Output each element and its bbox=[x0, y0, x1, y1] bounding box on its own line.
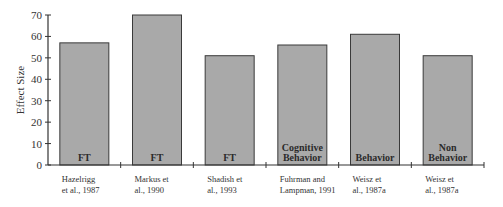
bar-inner-label: FT bbox=[151, 152, 164, 163]
x-category-label: Fuhrman and bbox=[280, 174, 326, 184]
x-category-label: Weisz et bbox=[353, 174, 382, 184]
x-axis bbox=[48, 162, 484, 168]
y-axis-label: Effect Size bbox=[14, 66, 26, 114]
bar bbox=[60, 43, 109, 165]
bar bbox=[133, 15, 182, 165]
x-category-label: Lampman, 1991 bbox=[280, 185, 336, 195]
bar bbox=[205, 56, 254, 165]
x-category-label: Hazelrigg bbox=[62, 174, 96, 184]
y-tick-label: 20 bbox=[31, 116, 43, 128]
x-category-label: al., 1990 bbox=[135, 185, 165, 195]
bar-inner-label: Behavior bbox=[428, 152, 467, 163]
y-tick-label: 40 bbox=[31, 73, 43, 85]
y-tick-label: 70 bbox=[31, 9, 43, 21]
y-tick-label: 30 bbox=[31, 95, 43, 107]
bar bbox=[351, 34, 400, 165]
y-tick-label: 10 bbox=[31, 138, 43, 150]
bar-inner-label: FT bbox=[223, 152, 236, 163]
x-category-label: Shadish et bbox=[207, 174, 243, 184]
x-category-label: al., 1987a bbox=[353, 185, 387, 195]
bar-inner-label: FT bbox=[78, 152, 91, 163]
x-category-label: et al., 1987 bbox=[62, 185, 100, 195]
effect-size-bar-chart: 010203040506070 Effect Size FTFTFTCognit… bbox=[0, 0, 503, 207]
x-category-label: al., 1993 bbox=[207, 185, 237, 195]
x-category-label: Weisz et bbox=[425, 174, 454, 184]
bar-inner-label: Behavior bbox=[356, 152, 395, 163]
bar-inner-label: Behavior bbox=[283, 152, 322, 163]
y-axis: 010203040506070 bbox=[31, 9, 51, 171]
category-labels: Hazelrigget al., 1987Markus etal., 1990S… bbox=[62, 174, 459, 195]
y-tick-label: 0 bbox=[37, 159, 43, 171]
y-tick-label: 50 bbox=[31, 52, 43, 64]
bars: FTFTFTCognitiveBehaviorBehaviorNonBehavi… bbox=[60, 15, 472, 165]
x-category-label: al., 1987a bbox=[425, 185, 459, 195]
x-category-label: Markus et bbox=[135, 174, 170, 184]
y-tick-label: 60 bbox=[31, 30, 43, 42]
